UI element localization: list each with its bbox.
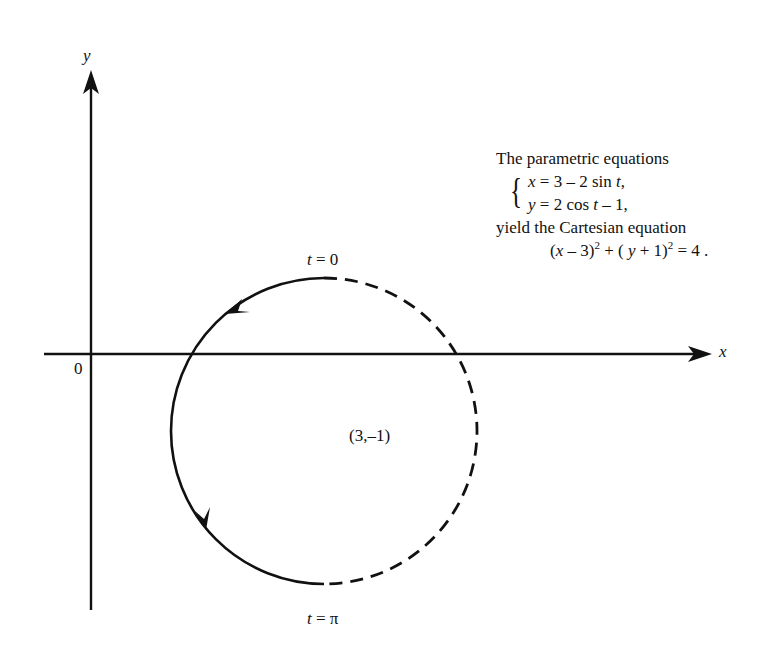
direction-arrow-upper-icon: [225, 299, 250, 314]
y-axis-label: y: [83, 47, 91, 64]
description-line-1: The parametric equations: [496, 147, 708, 170]
parametric-system: { x = 3 – 2 sin t, y = 2 cos t – 1,: [510, 170, 708, 216]
origin-label: 0: [74, 360, 83, 377]
equation-description: The parametric equations { x = 3 – 2 sin…: [496, 147, 708, 262]
equation-y: y = 2 cos t – 1,: [528, 193, 708, 216]
untraced-arc-dashed: [324, 278, 477, 584]
x-axis-label: x: [719, 343, 727, 360]
equation-x: x = 3 – 2 sin t,: [528, 170, 708, 193]
description-line-2: yield the Cartesian equation: [496, 216, 708, 239]
t-end-label: t = π: [307, 610, 338, 627]
brace-icon: {: [510, 171, 522, 211]
t-start-label: t = 0: [307, 251, 338, 268]
cartesian-equation: (x – 3)2 + ( y + 1)2 = 4 .: [496, 239, 708, 262]
traced-arc-solid: [171, 278, 324, 584]
center-label: (3,–1): [349, 427, 390, 444]
diagram-canvas: [0, 0, 760, 664]
